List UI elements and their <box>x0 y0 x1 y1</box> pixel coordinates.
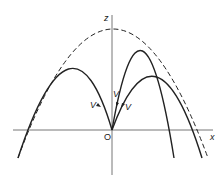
velocity-label-left: V <box>90 100 96 110</box>
velocity-label-steep: V <box>113 89 119 99</box>
z-axis-label: z <box>104 13 109 23</box>
wide-right-trajectory <box>112 76 202 158</box>
diagram-canvas <box>0 0 224 183</box>
trajectory-diagram: z x O V V V <box>0 0 224 183</box>
x-axis-label: x <box>210 132 215 142</box>
arrow-steep-icon <box>116 102 119 107</box>
origin-label: O <box>104 132 111 142</box>
velocity-label-wide: V <box>125 102 131 112</box>
arrow-left-icon <box>96 103 101 107</box>
left-trajectory <box>18 68 112 158</box>
